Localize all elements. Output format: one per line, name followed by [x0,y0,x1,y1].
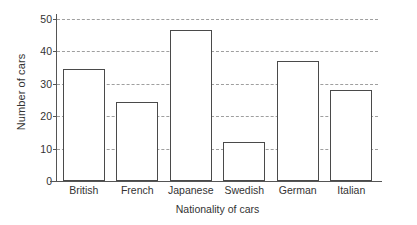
x-axis-tick-labels: BritishFrenchJapaneseSwedishGermanItalia… [57,184,378,202]
bar [116,102,158,181]
bar [63,69,105,181]
y-axis-tick-label: 0 [26,175,52,187]
x-axis-tick-label: Japanese [164,184,218,196]
x-axis-tick-label: German [271,184,325,196]
plot-area [57,19,378,181]
bar-chart: Number of cars 01020304050 BritishFrench… [0,0,417,225]
x-axis-tick-label: Italian [325,184,379,196]
y-axis-tick-labels: 01020304050 [26,0,52,225]
bar [330,90,372,181]
gridline [57,84,378,85]
x-axis-tick-label: Swedish [218,184,272,196]
gridline [57,51,378,52]
y-axis-tick-label: 30 [26,78,52,90]
y-axis-tick-label: 50 [26,13,52,25]
x-axis-title: Nationality of cars [57,203,378,215]
y-axis-tick-label: 40 [26,45,52,57]
y-axis-tick-label: 20 [26,110,52,122]
x-axis-tick-label: French [111,184,165,196]
gridline [57,19,378,20]
bar [170,30,212,181]
bar [277,61,319,181]
x-axis-tick-label: British [57,184,111,196]
bar [223,142,265,181]
y-axis-tick-label: 10 [26,143,52,155]
